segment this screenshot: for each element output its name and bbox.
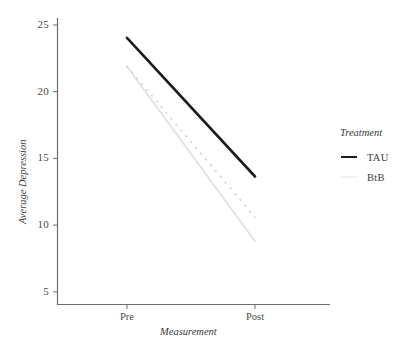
legend-label-btb: BtB [367,172,385,183]
legend-key-btb-icon [340,171,358,183]
y-tick-label-20: 20 [24,85,49,97]
series-line-dotted [127,67,255,218]
legend-label-tau: TAU [367,152,389,163]
y-tick-label-5: 5 [24,285,49,297]
chart-figure: 25 20 15 10 5 Pre Post Average Depressio… [0,0,407,347]
legend-title: Treatment [340,127,406,138]
y-tick-label-25: 25 [24,18,49,30]
x-tick-label-post: Post [235,311,275,322]
x-axis-title: Measurement [160,326,217,337]
y-axis-title: Average Depression [17,140,28,224]
legend-key-tau-icon [340,151,358,163]
series-line-tau [127,38,255,177]
legend-item-btb[interactable]: BtB [340,167,406,187]
legend-item-tau[interactable]: TAU [340,147,406,167]
legend: Treatment TAU BtB [340,127,406,187]
x-tick-label-pre: Pre [107,311,147,322]
